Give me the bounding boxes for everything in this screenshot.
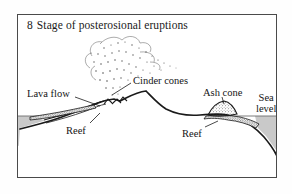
label-reef-left: Reef [66, 126, 86, 137]
label-cinder-cones: Cinder cones [133, 76, 188, 87]
ash-plume [85, 36, 176, 100]
label-sea-level: Sea level [256, 92, 276, 114]
leader-cinder-cones [112, 83, 131, 95]
label-sea-level-line1: Sea [256, 92, 276, 103]
label-ash-cone: Ash cone [203, 88, 242, 99]
leader-lava-flow [75, 97, 100, 106]
label-sea-level-line2: level [256, 103, 276, 114]
figure-container: 8Stage of posterosional eruptions [0, 0, 292, 194]
island-body [18, 92, 276, 158]
ash-cone-feature [208, 101, 237, 116]
label-reef-right: Reef [182, 129, 202, 140]
label-lava-flow: Lava flow [27, 89, 70, 100]
